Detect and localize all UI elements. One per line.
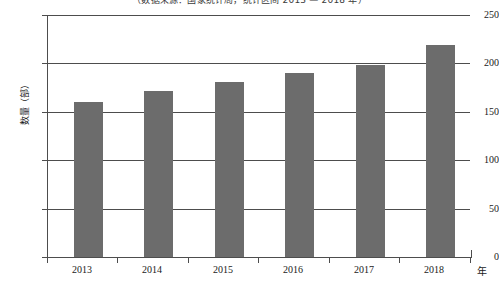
gridline-250: [47, 15, 470, 16]
bar-2015: [215, 82, 244, 257]
x-axis-line: [47, 257, 472, 258]
plot-area: [47, 15, 470, 257]
x-tick-mark-4: [329, 257, 330, 263]
x-tick-label-2016: 2016: [258, 264, 328, 275]
x-tick-label-2017: 2017: [329, 264, 399, 275]
x-tick-mark-5: [399, 257, 400, 263]
gridline-200: [47, 63, 470, 64]
bar-chart: （数据来源：国家统计局，统计区间 2013 — 2018 年） 250 200 …: [0, 0, 499, 283]
x-tick-label-2013: 2013: [47, 264, 117, 275]
x-tick-mark-2: [188, 257, 189, 263]
y-axis-title: 数量（部）: [18, 73, 31, 133]
bar-2017: [356, 65, 385, 257]
x-tick-label-2015: 2015: [188, 264, 258, 275]
x-tick-label-2014: 2014: [117, 264, 187, 275]
chart-title: （数据来源：国家统计局，统计区间 2013 — 2018 年）: [0, 0, 499, 6]
x-axis-title: 年: [477, 263, 487, 278]
bar-2014: [144, 91, 173, 258]
x-tick-mark-0: [47, 257, 48, 263]
bar-2013: [74, 102, 103, 257]
bar-2016: [285, 73, 314, 257]
x-tick-label-2018: 2018: [399, 264, 469, 275]
gridline-100: [47, 160, 470, 161]
gridline-150: [47, 112, 470, 113]
x-tick-mark-1: [117, 257, 118, 263]
bar-2018: [426, 45, 455, 257]
x-axis-endcap: [471, 250, 472, 258]
gridline-50: [47, 209, 470, 210]
x-tick-mark-3: [258, 257, 259, 263]
x-tick-mark-6: [470, 257, 471, 263]
